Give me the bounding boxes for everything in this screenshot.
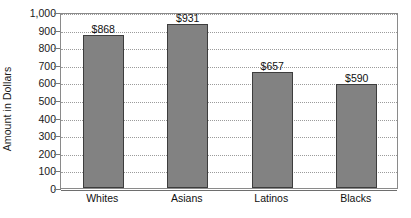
- x-axis-category-labels: WhitesAsiansLatinosBlacks: [60, 192, 398, 210]
- y-axis-tick-label: 900: [14, 25, 56, 37]
- plot-area: $868$931$657$590: [60, 13, 398, 189]
- bars-layer: $868$931$657$590: [61, 14, 397, 188]
- y-axis-title: Amount in Dollars: [0, 0, 14, 218]
- y-axis-tick-label: 700: [14, 60, 56, 72]
- x-axis-category-label: Blacks: [340, 192, 371, 204]
- y-axis-tick-mark: [54, 189, 61, 190]
- x-axis-category-label: Latinos: [254, 192, 288, 204]
- y-axis-tick-label: 0: [14, 183, 56, 195]
- y-axis-tick-label: 400: [14, 113, 56, 125]
- y-axis-tick-label: 300: [14, 130, 56, 142]
- axis-baseline: [61, 190, 397, 191]
- y-axis-tick-label: 800: [14, 42, 56, 54]
- y-axis-tick-label: 100: [14, 165, 56, 177]
- bar-value-label: $931: [176, 12, 199, 24]
- bar: $590: [336, 84, 377, 188]
- y-axis-tick-label: 500: [14, 95, 56, 107]
- y-axis-tick-label: 600: [14, 77, 56, 89]
- bar: $931: [167, 24, 208, 188]
- bar-value-label: $868: [92, 23, 115, 35]
- bar-chart: Amount in Dollars 0100200300400500600700…: [0, 0, 411, 218]
- bar-value-label: $657: [261, 60, 284, 72]
- bar: $657: [252, 72, 293, 188]
- x-axis-category-label: Asians: [171, 192, 203, 204]
- y-axis-tick-label: 1,000: [14, 7, 56, 19]
- bar: $868: [83, 35, 124, 188]
- y-axis-tick-label: 200: [14, 148, 56, 160]
- x-axis-category-label: Whites: [86, 192, 118, 204]
- bar-value-label: $590: [345, 72, 368, 84]
- y-axis-tick-labels: 01002003004005006007008009001,000: [14, 13, 56, 189]
